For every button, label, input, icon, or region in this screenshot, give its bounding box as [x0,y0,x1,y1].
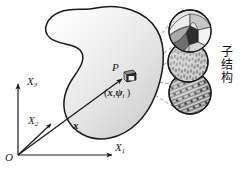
substructure-annotation-label: 子结构 [219,45,231,84]
grain-structure-circle [169,10,212,52]
position-vector-label: x [73,120,79,131]
coordinate-pair-label: (x,ψi ) [104,88,130,99]
figure-canvas: X3 X2 X1 O x P (x,ψi ) 子结构 [0,0,245,172]
material-point-cube [124,70,136,82]
body-domain-shape [46,7,164,139]
axis-label-x2: X2 [28,115,38,126]
axis-x2-line [18,124,51,155]
point-p-label: P [112,62,119,73]
origin-label: O [5,152,13,163]
axis-label-x1: X1 [115,142,125,153]
axis-label-x3: X3 [27,76,37,87]
